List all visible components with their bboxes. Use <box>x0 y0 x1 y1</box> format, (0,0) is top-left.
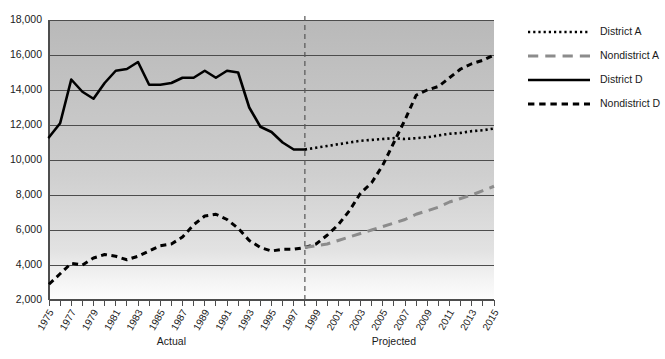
x-axis-tick-label: 1975 <box>35 307 56 332</box>
x-axis-tick-label: 1985 <box>146 307 167 332</box>
x-axis-tick-label: 1989 <box>191 307 212 332</box>
y-axis-tick-label: 16,000 <box>10 48 42 60</box>
x-axis-tick-label: 1993 <box>235 307 256 332</box>
chart-root: 18,00016,00014,00012,00010,0008,0006,000… <box>0 0 665 359</box>
legend-label-nondistrict-d: Nondistrict D <box>600 97 661 109</box>
x-axis-tick-label: 1991 <box>213 307 234 332</box>
x-axis-tick-label: 2011 <box>436 307 456 332</box>
y-axis-tick-label: 4,000 <box>16 258 42 270</box>
y-axis-tick-label: 6,000 <box>16 223 42 235</box>
x-axis-tick-label: 2015 <box>480 307 501 332</box>
x-axis-tick-label: 1983 <box>124 307 145 332</box>
chart-legend: District ANondistrict ADistrict DNondist… <box>528 25 661 109</box>
x-axis-tick-label: 1995 <box>258 307 279 332</box>
projected-section-label: Projected <box>372 335 417 347</box>
y-axis-tick-label: 2,000 <box>16 293 42 305</box>
legend-label-district-a: District A <box>600 25 641 37</box>
y-axis-tick-label: 8,000 <box>16 188 42 200</box>
x-axis-tick-label: 1997 <box>280 307 301 332</box>
x-axis-labels: 1975197719791981198319851987198919911993… <box>35 307 501 332</box>
x-axis-tick-label: 1981 <box>102 307 123 332</box>
x-axis-ticks <box>49 300 494 306</box>
y-axis-tick-label: 14,000 <box>10 83 42 95</box>
x-axis-tick-label: 2005 <box>369 307 390 332</box>
x-axis-tick-label: 2009 <box>413 307 434 332</box>
y-axis-labels: 18,00016,00014,00012,00010,0008,0006,000… <box>10 13 42 305</box>
y-axis-tick-label: 10,000 <box>10 153 42 165</box>
x-axis-tick-label: 1977 <box>57 307 78 332</box>
x-axis-tick-label: 1979 <box>80 307 101 332</box>
legend-label-district-d: District D <box>600 73 643 85</box>
legend-label-nondistrict-a: Nondistrict A <box>600 49 659 61</box>
x-axis-tick-label: 2007 <box>391 307 412 332</box>
x-axis-tick-label: 1999 <box>302 307 323 332</box>
x-axis-tick-label: 2003 <box>347 307 368 332</box>
x-axis-tick-label: 2001 <box>324 307 345 332</box>
y-axis-tick-label: 12,000 <box>10 118 42 130</box>
actual-section-label: Actual <box>157 335 186 347</box>
line-chart: 18,00016,00014,00012,00010,0008,0006,000… <box>0 0 665 359</box>
x-axis-tick-label: 2013 <box>458 307 479 332</box>
x-axis-tick-label: 1987 <box>169 307 190 332</box>
section-labels: ActualProjected <box>157 335 416 347</box>
y-axis-tick-label: 18,000 <box>10 13 42 25</box>
